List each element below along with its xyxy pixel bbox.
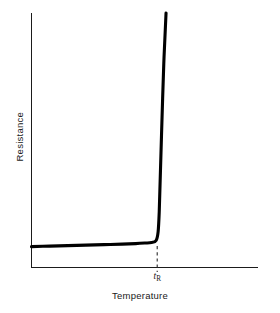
tr-tick-label: tR xyxy=(141,272,173,284)
x-axis-label: Temperature xyxy=(0,291,280,301)
resistance-curve xyxy=(32,13,167,247)
plot-area xyxy=(0,0,280,313)
y-axis-label: Resistance xyxy=(15,101,25,173)
tr-subscript: R xyxy=(156,275,161,283)
y-axis-label-wrap: Resistance xyxy=(0,100,40,180)
chart-figure: Resistance Temperature tR xyxy=(0,0,280,313)
